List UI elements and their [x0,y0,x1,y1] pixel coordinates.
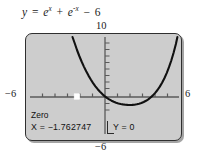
readout-values-row: X = −1.762747 Y = 0 [30,122,179,136]
readout-divider-foot [107,133,114,134]
equation-term1: ex [43,6,52,18]
graphing-calculator-screen[interactable]: Zero X = −1.762747 Y = 0 [25,33,182,141]
equation-caption: y = ex + e-x − 6 [22,6,101,18]
equation-term2-exponent: -x [73,5,79,13]
equation-minus: − [82,6,92,18]
axis-label-bottom: −6 [95,141,106,152]
equation-constant: 6 [95,6,101,18]
equation-lhs: y [22,6,27,18]
equation-term2: e-x [68,6,79,18]
readout-y-value: Y = 0 [113,122,135,132]
zero-cursor-marker[interactable] [74,94,79,99]
axis-label-top: 10 [96,20,107,31]
axis-label-left: −6 [5,88,16,99]
readout-title: Zero [31,110,49,120]
readout-x-value: X = −1.762747 [31,122,91,132]
function-curve [73,37,178,105]
equation-term1-exponent: x [48,5,51,13]
axis-label-right: 6 [185,88,190,99]
equation-plus: + [55,6,65,18]
zero-readout-panel: Zero X = −1.762747 Y = 0 [30,110,179,138]
equation-equals: = [30,6,40,18]
